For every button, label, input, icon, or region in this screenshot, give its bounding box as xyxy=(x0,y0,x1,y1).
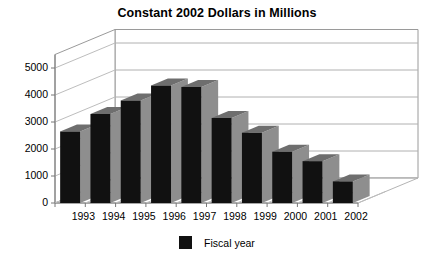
legend-label: Fiscal year xyxy=(204,237,255,249)
y-tick-label-1000: 1000 xyxy=(8,169,48,181)
x-tick-label-2002: 2002 xyxy=(336,210,376,222)
y-tick-label-0: 0 xyxy=(8,196,48,208)
legend-color-swatch xyxy=(179,236,192,249)
y-tick-label-2000: 2000 xyxy=(8,142,48,154)
chart-legend: Fiscal year xyxy=(0,236,434,249)
y-tick-label-3000: 3000 xyxy=(8,115,48,127)
y-tick-label-4000: 4000 xyxy=(8,88,48,100)
y-tick-label-5000: 5000 xyxy=(8,61,48,73)
bar-chart-figure: Constant 2002 Dollars in Millions 010002… xyxy=(0,0,434,258)
